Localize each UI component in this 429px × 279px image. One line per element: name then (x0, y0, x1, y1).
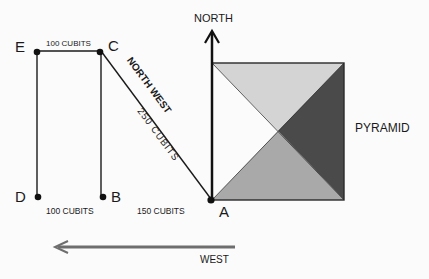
point-c (97, 49, 104, 56)
west-arrow (55, 241, 235, 253)
pyramid-survey-diagram: NORTH E C D B A 100 CUBITS 100 CUBITS 15… (0, 0, 429, 279)
ca-direction-label: NORTH WEST (125, 55, 174, 116)
point-b-label: B (111, 188, 121, 205)
point-c-label: C (108, 37, 119, 54)
pyramid (212, 63, 344, 200)
pyramid-label: PYRAMID (355, 121, 410, 135)
point-a (207, 196, 214, 203)
point-d-label: D (15, 188, 26, 205)
ca-distance-label: 250 CUBITS (135, 106, 182, 163)
point-b (100, 194, 107, 201)
ec-distance-label: 100 CUBITS (46, 39, 91, 48)
point-e-label: E (15, 38, 25, 55)
point-e (34, 49, 41, 56)
db-distance-label: 100 CUBITS (46, 206, 94, 216)
point-a-label: A (219, 203, 229, 220)
ba-distance-label: 150 CUBITS (137, 206, 185, 216)
survey-lines (37, 51, 211, 199)
north-label: NORTH (194, 12, 233, 24)
point-d (35, 194, 42, 201)
west-label: WEST (200, 254, 229, 265)
